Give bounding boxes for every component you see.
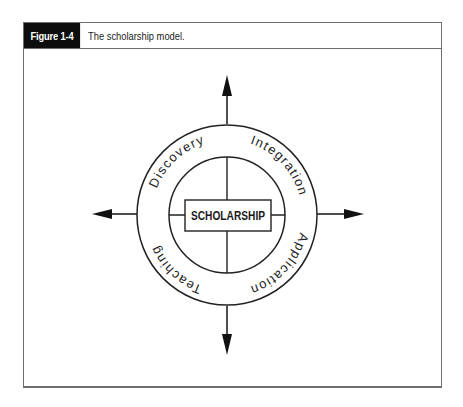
arrow-down-icon — [222, 306, 232, 355]
center-label: SCHOLARSHIP — [191, 208, 265, 223]
arrow-up-icon — [222, 75, 232, 124]
scholarship-model-diagram: SCHOLARSHIP Discovery Integration Applic… — [0, 0, 463, 407]
arrow-right-icon — [317, 209, 364, 219]
arrow-left-icon — [92, 209, 137, 219]
